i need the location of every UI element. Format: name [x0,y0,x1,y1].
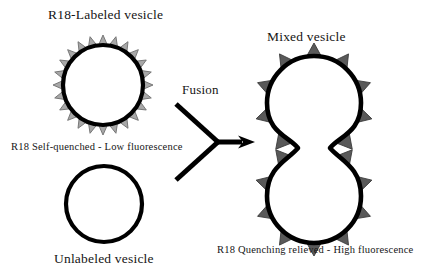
label-self-quenched: R18 Self-quenched - Low fluorescence [11,141,183,152]
unlabeled-vesicle [66,166,142,242]
vesicle-fusion-diagram: R18-Labeled vesicle R18 Self-quenched - … [0,0,440,280]
label-r18-labeled-vesicle: R18-Labeled vesicle [48,7,163,23]
mixed-vesicle-membrane [267,56,361,243]
r18-vesicle-membrane [63,45,143,125]
diagram-canvas [0,0,440,280]
label-quenching-relieved: R18 Quenching relieved - High fluorescen… [217,244,413,255]
fusion-arrow-upper-tail [176,104,218,142]
fusion-arrow [176,104,255,180]
unlabeled-vesicle-membrane [66,166,142,242]
label-unlabeled-vesicle: Unlabeled vesicle [54,251,154,267]
label-fusion: Fusion [182,82,219,98]
mixed-vesicle [256,43,372,256]
r18-labeled-vesicle [53,35,153,135]
label-mixed-vesicle: Mixed vesicle [267,29,346,45]
